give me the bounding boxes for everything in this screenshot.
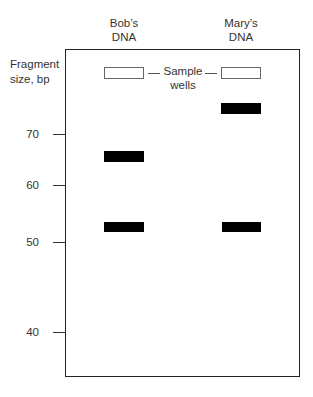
tick-label-70: 70: [9, 128, 39, 140]
lane-label-bob-line2: DNA: [94, 30, 154, 44]
gel-box: [65, 49, 300, 377]
band-bob-52bp: [104, 222, 144, 232]
band-mary-75bp: [221, 103, 261, 114]
axis-title-line2: size, bp: [10, 72, 59, 87]
sample-well-mary: [221, 67, 261, 79]
tick-label-50: 50: [9, 236, 39, 248]
axis-title-line1: Fragment: [10, 57, 59, 72]
lane-label-bob: Bob’s DNA: [94, 16, 154, 44]
tick-50: [53, 242, 65, 243]
lane-label-bob-line1: Bob’s: [94, 16, 154, 30]
wells-label: Sample wells: [158, 64, 208, 92]
band-mary-52bp: [222, 222, 261, 232]
band-bob-65bp: [104, 151, 144, 162]
tick-70: [53, 134, 65, 135]
tick-label-60: 60: [9, 179, 39, 191]
tick-60: [53, 185, 65, 186]
lane-label-mary: Mary’s DNA: [211, 16, 271, 44]
lane-label-mary-line1: Mary’s: [211, 16, 271, 30]
sample-well-bob: [104, 67, 144, 79]
tick-40: [53, 332, 65, 333]
lane-label-mary-line2: DNA: [211, 30, 271, 44]
axis-title: Fragment size, bp: [10, 57, 59, 87]
wells-leader-right: [205, 73, 217, 74]
tick-label-40: 40: [9, 326, 39, 338]
wells-label-line2: wells: [158, 78, 208, 92]
wells-label-line1: Sample: [158, 64, 208, 78]
